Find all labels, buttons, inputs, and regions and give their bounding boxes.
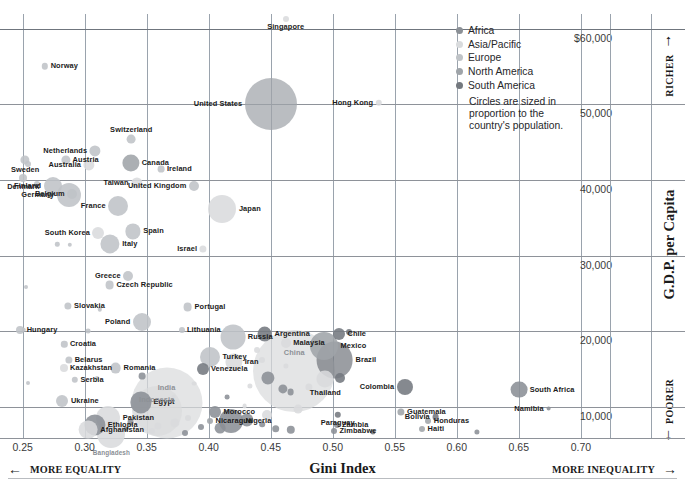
country-label: Netherlands xyxy=(43,147,87,154)
y-tick-label: $60,000 xyxy=(574,32,612,44)
country-label: Slovakia xyxy=(74,302,105,309)
bubble-unlabeled[interactable] xyxy=(294,405,303,414)
bubble-france[interactable] xyxy=(108,196,128,216)
bubble-unlabeled[interactable] xyxy=(198,424,204,430)
bubble-south-korea[interactable] xyxy=(92,227,104,239)
country-label: Namibia xyxy=(514,405,543,412)
bubble-unlabeled[interactable] xyxy=(286,425,294,433)
x-tick-label: 0.25 xyxy=(12,441,32,453)
bubble-portugal[interactable] xyxy=(183,303,192,312)
country-label: Thailand xyxy=(310,389,341,396)
bubble-belarus[interactable] xyxy=(65,357,72,364)
bubble-unlabeled[interactable] xyxy=(68,243,72,247)
country-label: Norway xyxy=(51,63,78,70)
bubble-israel[interactable] xyxy=(200,245,207,252)
bubble-unlabeled[interactable] xyxy=(335,373,345,383)
y-tick-label: 50,000 xyxy=(580,107,612,119)
country-label: Indonesia xyxy=(139,397,174,404)
bubble-nicaragua[interactable] xyxy=(207,418,213,424)
bubble-malaysia[interactable] xyxy=(281,338,291,348)
bubble-lithuania[interactable] xyxy=(179,327,185,333)
bubble-spain[interactable] xyxy=(126,224,141,239)
country-label: South Africa xyxy=(530,386,575,393)
bubble-singapore[interactable] xyxy=(283,16,289,22)
bubble-unlabeled[interactable] xyxy=(272,425,280,433)
bubble-unlabeled[interactable] xyxy=(55,242,59,246)
bubble-colombia[interactable] xyxy=(397,379,413,395)
bubble-poland[interactable] xyxy=(133,313,151,331)
x-axis-line-extension xyxy=(610,438,685,439)
bubble-unlabeled[interactable] xyxy=(191,381,196,386)
country-label: France xyxy=(81,203,106,210)
country-label: Hungary xyxy=(27,326,58,333)
bubble-unlabeled[interactable] xyxy=(182,430,188,436)
legend-item-africa[interactable]: Africa xyxy=(456,24,535,38)
bubble-unlabeled[interactable] xyxy=(24,285,28,289)
bubble-slovakia[interactable] xyxy=(64,302,71,309)
country-label: Singapore xyxy=(267,23,304,30)
bubble-unlabeled[interactable] xyxy=(474,429,479,434)
country-label: Mexico xyxy=(341,342,367,349)
bubble-guatemala[interactable] xyxy=(397,408,404,415)
bubble-kazakhstan[interactable] xyxy=(60,364,68,372)
bubble-chile[interactable] xyxy=(333,328,345,340)
legend-item-south-america[interactable]: South America xyxy=(456,78,535,92)
bubble-canada[interactable] xyxy=(122,154,139,171)
y-tick-label: 30,000 xyxy=(580,259,612,271)
bubble-united-kingdom[interactable] xyxy=(189,181,199,191)
country-label: United Kingdom xyxy=(128,182,186,189)
country-label: Italy xyxy=(122,240,137,247)
bubble-zimbabwe[interactable] xyxy=(331,428,337,434)
bubble-venezuela[interactable] xyxy=(197,363,209,375)
bubble-ukraine[interactable] xyxy=(56,395,68,407)
bubble-czech-republic[interactable] xyxy=(105,281,114,290)
bubble-haiti[interactable] xyxy=(419,426,425,432)
country-label: Zimbabwe xyxy=(340,427,377,434)
country-label: Lithuania xyxy=(187,326,221,333)
bubble-unlabeled[interactable] xyxy=(254,347,260,353)
y-gridline-extension xyxy=(610,331,685,332)
bubble-south-africa[interactable] xyxy=(510,381,527,398)
country-label: Australia xyxy=(48,161,81,168)
x-gridline xyxy=(23,14,24,438)
x-tick-label: 0.65 xyxy=(509,441,529,453)
bubble-unlabeled[interactable] xyxy=(86,329,91,334)
bubble-united-states[interactable] xyxy=(245,78,297,130)
bubble-unlabeled[interactable] xyxy=(149,428,155,434)
bubble-unlabeled[interactable] xyxy=(185,415,191,421)
legend-label: Europe xyxy=(468,52,501,63)
bubble-namibia[interactable] xyxy=(546,406,551,411)
legend-label: Asia/Pacific xyxy=(468,39,521,50)
bubble-serbia[interactable] xyxy=(72,376,78,382)
country-label: United States xyxy=(194,101,243,108)
bubble-ireland[interactable] xyxy=(158,166,165,173)
country-label: Croatia xyxy=(70,340,96,347)
legend-size-note: Circles are sized in proportion to the c… xyxy=(469,96,574,131)
bubble-japan[interactable] xyxy=(208,195,236,223)
y-tick-label: 20,000 xyxy=(580,334,612,346)
bubble-unlabeled[interactable] xyxy=(247,383,252,388)
country-label: Belarus xyxy=(75,356,103,363)
legend-dot-icon xyxy=(456,41,463,48)
country-label: Romania xyxy=(124,365,156,372)
legend-item-asia-pacific[interactable]: Asia/Pacific xyxy=(456,38,535,52)
bubble-afghanistan[interactable] xyxy=(79,420,98,439)
bubble-italy[interactable] xyxy=(101,234,120,253)
country-label: Colombia xyxy=(360,384,394,391)
y-tick-label: 10,000 xyxy=(580,410,612,422)
bubble-unlabeled[interactable] xyxy=(287,388,294,395)
legend-item-europe[interactable]: Europe xyxy=(456,51,535,65)
bubble-paraguay[interactable] xyxy=(334,411,340,417)
bubble-unlabeled[interactable] xyxy=(259,357,265,363)
x-tick-label: 0.35 xyxy=(136,441,156,453)
bubble-unlabeled[interactable] xyxy=(26,381,30,385)
bubble-russia[interactable] xyxy=(220,325,245,350)
legend-item-north-america[interactable]: North America xyxy=(456,65,535,79)
country-label: Venezuela xyxy=(211,365,248,372)
bubble-switzerland[interactable] xyxy=(127,135,136,144)
bubble-croatia[interactable] xyxy=(61,341,67,347)
bubble-unlabeled[interactable] xyxy=(225,395,230,400)
bubble-norway[interactable] xyxy=(42,63,48,69)
bubble-belgium[interactable] xyxy=(67,189,77,199)
bubble-unlabeled[interactable] xyxy=(138,372,145,379)
